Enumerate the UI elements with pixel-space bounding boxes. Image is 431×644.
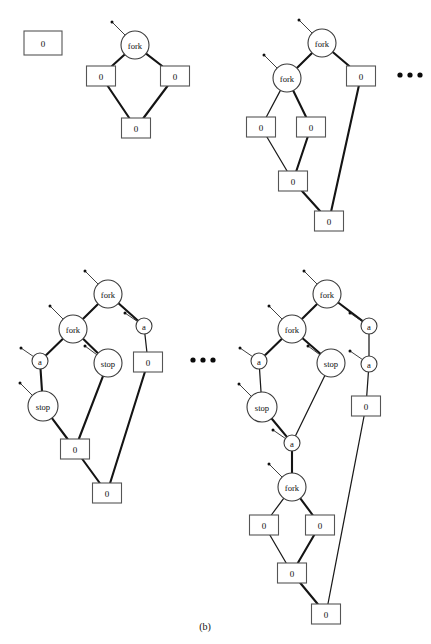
figure-caption: (b) bbox=[199, 621, 211, 633]
figure-caption-layer: (b) bbox=[0, 0, 431, 644]
figure-container: 0fork000forkfork00000forkforkaastop0stop… bbox=[0, 0, 431, 644]
